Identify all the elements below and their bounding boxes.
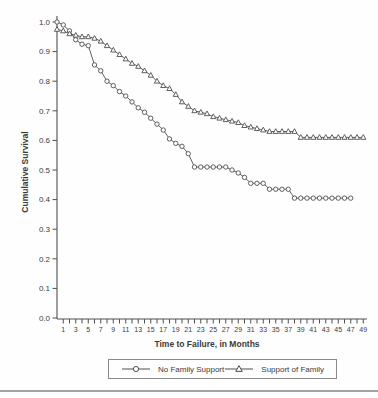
data-point-circle [174, 141, 178, 145]
data-point-circle [199, 165, 203, 169]
data-point-circle [324, 196, 328, 200]
x-tick-label: 19 [172, 326, 180, 333]
data-point-circle [280, 187, 284, 191]
data-point-circle [86, 43, 90, 47]
x-tick-label: 33 [259, 326, 267, 333]
x-tick-label: 47 [347, 326, 355, 333]
x-tick-label: 35 [272, 326, 280, 333]
legend: No Family Support Support of Family [108, 359, 337, 379]
y-tick-label: 0.2 [39, 255, 51, 264]
bottom-rule [0, 390, 378, 392]
data-point-circle [92, 63, 96, 67]
data-point-triangle [286, 129, 291, 134]
data-point-triangle [279, 129, 284, 134]
y-tick-label: 0.1 [39, 284, 51, 293]
y-tick-label: 0.6 [39, 136, 51, 145]
y-tick-label: 1.0 [39, 18, 51, 27]
x-tick-label: 49 [359, 326, 367, 333]
x-tick-label: 45 [334, 326, 342, 333]
data-point-triangle [161, 83, 166, 88]
data-point-circle [180, 144, 184, 148]
data-point-triangle [104, 43, 109, 48]
triangle-marker-icon [224, 364, 254, 374]
data-point-circle [149, 116, 153, 120]
x-tick-label: 7 [99, 326, 103, 333]
data-point-triangle [186, 104, 191, 109]
data-point-circle [236, 171, 240, 175]
x-tick-label: 31 [247, 326, 255, 333]
data-point-circle [117, 89, 121, 93]
data-point-circle [192, 165, 196, 169]
data-point-circle [124, 94, 128, 98]
data-point-triangle [148, 73, 153, 78]
data-point-circle [336, 196, 340, 200]
data-point-circle [211, 165, 215, 169]
data-point-circle [274, 187, 278, 191]
x-tick-label: 5 [86, 326, 90, 333]
data-point-circle [99, 69, 103, 73]
data-point-circle [205, 165, 209, 169]
series-line [57, 22, 351, 198]
x-tick-label: 29 [234, 326, 242, 333]
data-point-circle [299, 196, 303, 200]
x-tick-label: 3 [74, 326, 78, 333]
data-point-triangle [123, 56, 128, 61]
y-tick-label: 0.8 [39, 77, 51, 86]
data-point-circle [74, 38, 78, 42]
data-point-circle [161, 128, 165, 132]
data-point-circle [317, 196, 321, 200]
x-tick-label: 21 [184, 326, 192, 333]
data-point-circle [130, 100, 134, 104]
legend-label-no-family-support: No Family Support [158, 365, 224, 374]
data-point-circle [80, 42, 84, 46]
data-point-circle [136, 106, 140, 110]
data-point-circle [255, 181, 259, 185]
data-point-circle [292, 196, 296, 200]
x-axis-title: Time to Failure, in Months [47, 339, 367, 349]
x-tick-label: 37 [284, 326, 292, 333]
data-point-circle [230, 168, 234, 172]
y-tick-label: 0.9 [39, 47, 51, 56]
data-point-circle [186, 152, 190, 156]
data-point-circle [242, 175, 246, 179]
x-tick-label: 41 [309, 326, 317, 333]
x-tick-label: 11 [122, 326, 129, 333]
data-point-circle [111, 83, 115, 87]
data-point-circle [311, 196, 315, 200]
y-tick-label: 0.0 [39, 314, 51, 323]
x-tick-label: 43 [322, 326, 330, 333]
y-axis-title: Cumulative Survival [20, 131, 30, 212]
y-tick-label: 0.7 [39, 107, 51, 116]
legend-label-support-of-family: Support of Family [261, 365, 324, 374]
data-point-circle [55, 20, 59, 24]
data-point-triangle [142, 68, 147, 73]
x-tick-label: 39 [297, 326, 305, 333]
data-point-circle [305, 196, 309, 200]
series-no-family-support [55, 20, 353, 201]
data-point-circle [224, 165, 228, 169]
data-point-circle [249, 181, 253, 185]
x-tick-label: 1 [61, 326, 65, 333]
data-point-circle [105, 79, 109, 83]
series-support-of-family [54, 27, 366, 140]
data-point-circle [286, 187, 290, 191]
x-tick-label: 23 [197, 326, 205, 333]
data-point-circle [267, 187, 271, 191]
circle-marker-icon [121, 364, 151, 374]
x-tick-label: 9 [111, 326, 115, 333]
data-point-circle [142, 110, 146, 114]
legend-item-no-family-support: No Family Support [121, 364, 224, 374]
data-point-circle [217, 165, 221, 169]
data-point-triangle [111, 47, 116, 52]
data-point-circle [167, 137, 171, 141]
y-tick-label: 0.5 [39, 166, 51, 175]
y-tick-label: 0.3 [39, 225, 51, 234]
data-point-circle [61, 23, 65, 27]
data-point-circle [155, 122, 159, 126]
data-point-circle [349, 196, 353, 200]
data-point-triangle [117, 52, 122, 57]
x-tick-label: 25 [209, 326, 217, 333]
x-tick-label: 15 [147, 326, 155, 333]
data-point-circle [342, 196, 346, 200]
legend-item-support-of-family: Support of Family [224, 364, 324, 374]
